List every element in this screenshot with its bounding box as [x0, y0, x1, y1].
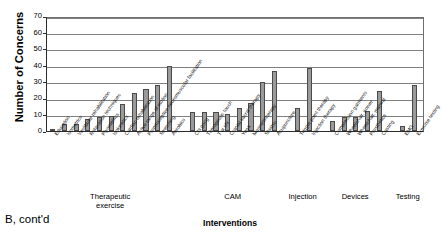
bar-slot: [397, 18, 409, 131]
group-label-line: CAM: [193, 192, 273, 201]
group-label-line: Testing: [368, 192, 445, 201]
group-label-therapeutic-exercise: Therapeuticexercise: [70, 192, 150, 210]
bar-slot: [59, 18, 71, 131]
y-tick-label: 0: [18, 127, 42, 135]
y-tick-mark: [43, 132, 46, 133]
bar-slot: [47, 18, 59, 131]
x-axis-title: Interventions: [150, 218, 310, 228]
group-label-testing: Testing: [368, 192, 445, 201]
group-label-line: exercise: [70, 201, 150, 210]
group-spacer: [385, 18, 397, 131]
group-label-line: Therapeutic: [70, 192, 150, 201]
group-spacer: [175, 18, 187, 131]
bar: [412, 85, 417, 131]
cropped-title-strip: [120, 0, 330, 7]
group-label-cam: CAM: [193, 192, 273, 201]
bar-slot: [199, 18, 211, 131]
bar: [295, 108, 300, 131]
bar-slot: [70, 18, 82, 131]
bar: [190, 112, 195, 130]
bar-slot: [408, 18, 420, 131]
y-axis-title: Number of Concerns: [13, 8, 27, 126]
panel-label: B, cont'd: [5, 213, 49, 225]
